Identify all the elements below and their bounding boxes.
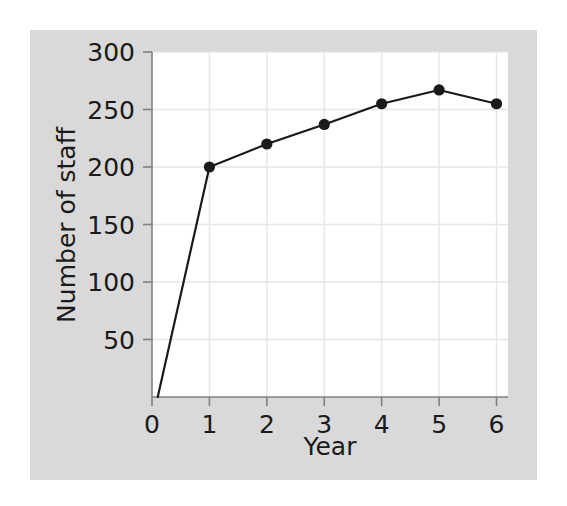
y-tick-label-100: 100 <box>87 268 135 297</box>
y-axis-title: Number of staff <box>52 126 81 323</box>
y-tick-label-250: 250 <box>87 96 135 125</box>
x-axis-tick-marks <box>152 397 497 406</box>
y-tick-label-300: 300 <box>87 38 135 67</box>
y-axis-tick-marks <box>143 52 152 340</box>
x-tick-label-1: 1 <box>201 410 217 439</box>
x-tick-label-6: 6 <box>489 410 505 439</box>
y-tick-label-200: 200 <box>87 153 135 182</box>
line-chart-canvas: 50100150200250300 0123456 Year Number of… <box>0 0 567 506</box>
x-tick-label-4: 4 <box>374 410 390 439</box>
x-tick-label-5: 5 <box>431 410 447 439</box>
y-tick-label-50: 50 <box>103 326 135 355</box>
data-point-year-3 <box>319 119 330 130</box>
x-tick-label-2: 2 <box>259 410 275 439</box>
y-tick-label-150: 150 <box>87 211 135 240</box>
data-point-year-1 <box>204 161 215 172</box>
chart-figure: 50100150200250300 0123456 Year Number of… <box>0 0 567 506</box>
y-axis-tick-labels: 50100150200250300 <box>87 38 135 355</box>
data-point-year-6 <box>491 98 502 109</box>
x-axis-title: Year <box>303 432 358 461</box>
data-point-year-2 <box>261 138 272 149</box>
x-tick-label-0: 0 <box>144 410 160 439</box>
data-point-year-4 <box>376 98 387 109</box>
data-point-year-5 <box>433 84 444 95</box>
